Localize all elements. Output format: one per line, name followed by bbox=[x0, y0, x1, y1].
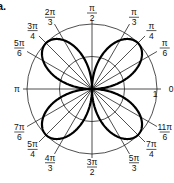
part-label: a. bbox=[0, 0, 6, 12]
svg-text:3π: 3π bbox=[87, 157, 98, 167]
svg-text:2: 2 bbox=[90, 13, 95, 23]
svg-text:3π: 3π bbox=[27, 21, 38, 31]
svg-text:π: π bbox=[131, 7, 137, 17]
svg-text:11π: 11π bbox=[157, 122, 172, 132]
grid-ray bbox=[39, 89, 92, 142]
svg-text:2: 2 bbox=[90, 167, 95, 177]
svg-text:3: 3 bbox=[48, 17, 53, 27]
angle-label: 4π3 bbox=[45, 153, 56, 173]
angle-label: 3π2 bbox=[87, 157, 98, 177]
angle-label: 7π4 bbox=[146, 139, 157, 159]
svg-text:3: 3 bbox=[48, 163, 53, 173]
svg-text:6: 6 bbox=[17, 132, 22, 142]
angle-label: 3π4 bbox=[27, 21, 38, 41]
radial-tick-label: 1 bbox=[153, 89, 158, 99]
grid-ray bbox=[39, 36, 92, 89]
svg-text:4π: 4π bbox=[45, 153, 56, 163]
polar-plot: a. 0π6π4π3π22π33π45π6π7π65π44π33π25π37π4… bbox=[0, 0, 174, 183]
svg-text:2π: 2π bbox=[45, 7, 56, 17]
svg-text:7π: 7π bbox=[14, 122, 25, 132]
angle-label: π2 bbox=[87, 3, 97, 23]
svg-text:π: π bbox=[162, 38, 168, 48]
svg-text:π: π bbox=[14, 84, 20, 94]
grid-ray bbox=[92, 36, 145, 89]
svg-text:7π: 7π bbox=[146, 139, 157, 149]
svg-text:4: 4 bbox=[30, 31, 35, 41]
svg-text:5π: 5π bbox=[14, 38, 25, 48]
svg-text:6: 6 bbox=[162, 132, 167, 142]
svg-text:4: 4 bbox=[149, 149, 154, 159]
svg-text:π: π bbox=[148, 21, 154, 31]
angle-label: π6 bbox=[160, 38, 170, 58]
svg-text:4: 4 bbox=[149, 31, 154, 41]
angle-label: 2π3 bbox=[45, 7, 56, 27]
angle-label: 11π6 bbox=[157, 122, 172, 142]
svg-text:5π: 5π bbox=[27, 139, 38, 149]
angle-label: π3 bbox=[129, 7, 139, 27]
angle-label: 0 bbox=[169, 84, 174, 94]
svg-text:5π: 5π bbox=[129, 153, 140, 163]
angle-label: 5π6 bbox=[14, 38, 25, 58]
svg-text:6: 6 bbox=[17, 48, 22, 58]
angle-label: 5π4 bbox=[27, 139, 38, 159]
svg-text:3: 3 bbox=[132, 17, 137, 27]
svg-text:3: 3 bbox=[132, 163, 137, 173]
svg-text:0: 0 bbox=[169, 84, 174, 94]
grid-ray bbox=[92, 89, 145, 142]
angle-label: π4 bbox=[146, 21, 156, 41]
angle-label: π bbox=[14, 84, 20, 94]
svg-text:π: π bbox=[89, 3, 95, 13]
svg-text:6: 6 bbox=[162, 48, 167, 58]
svg-text:4: 4 bbox=[30, 149, 35, 159]
angle-label: 5π3 bbox=[129, 153, 140, 173]
angle-label: 7π6 bbox=[14, 122, 25, 142]
